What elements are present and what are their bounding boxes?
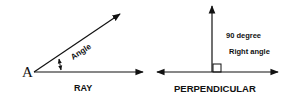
perpendicular-caption: PERPENDICULAR [174,83,256,94]
ray-upper-line [34,14,120,72]
perpendicular-figure: 90 degree Right angle PERPENDICULAR [157,6,278,94]
ray-figure: A Angle RAY [22,14,143,93]
right-angle-label: Right angle [229,47,270,56]
right-angle-square-icon [213,64,221,72]
point-a-label: A [22,64,33,80]
angle-arc-arrow-icon [59,59,61,70]
angle-label: Angle [69,42,93,62]
ninety-degree-label: 90 degree [226,31,261,40]
geometry-diagram: A Angle RAY 90 degree Right angle PERPEN… [0,0,293,99]
ray-caption: RAY [74,83,92,93]
